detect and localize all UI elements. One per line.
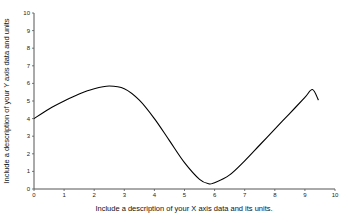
x-tick-label: 6 — [213, 192, 217, 198]
x-tick-label: 2 — [93, 192, 97, 198]
x-tick-label: 10 — [332, 192, 339, 198]
x-tick-label: 7 — [243, 192, 247, 198]
y-tick-label: 10 — [23, 10, 30, 16]
y-tick-label: 7 — [27, 63, 31, 69]
y-tick-label: 0 — [27, 186, 31, 192]
x-tick-label: 1 — [62, 192, 66, 198]
y-tick-label: 1 — [27, 168, 31, 174]
x-axis-ticks: 012345678910 — [32, 189, 339, 198]
y-tick-label: 4 — [27, 116, 31, 122]
x-tick-label: 5 — [183, 192, 187, 198]
y-tick-label: 9 — [27, 28, 31, 34]
y-tick-label: 8 — [27, 45, 31, 51]
x-tick-label: 8 — [273, 192, 277, 198]
x-axis-label: Include a description of your X axis dat… — [95, 204, 272, 213]
y-tick-label: 5 — [27, 98, 31, 104]
x-tick-label: 9 — [303, 192, 307, 198]
y-axis-label: Include a description of your Y axis dat… — [2, 18, 11, 183]
line-chart: 012345678910 012345678910 Include a desc… — [0, 0, 350, 223]
x-tick-label: 4 — [153, 192, 157, 198]
y-tick-label: 3 — [27, 133, 31, 139]
y-tick-label: 6 — [27, 80, 31, 86]
x-tick-label: 0 — [32, 192, 36, 198]
y-axis-ticks: 012345678910 — [23, 10, 34, 192]
y-tick-label: 2 — [27, 151, 31, 157]
x-tick-label: 3 — [123, 192, 127, 198]
data-line — [34, 86, 318, 184]
